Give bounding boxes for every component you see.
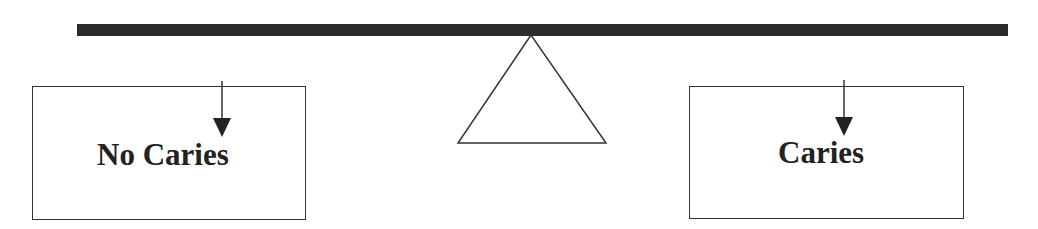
down-arrow-icon	[835, 80, 853, 136]
caries-label: Caries	[778, 135, 864, 171]
down-arrow-icon	[213, 81, 231, 137]
no-caries-label: No Caries	[97, 137, 229, 173]
diagram-shapes	[0, 0, 1038, 229]
fulcrum-triangle	[458, 35, 606, 143]
